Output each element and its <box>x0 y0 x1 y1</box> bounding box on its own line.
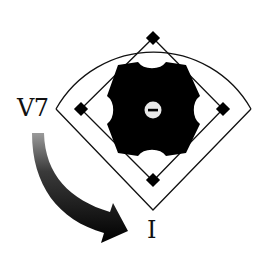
minus-icon <box>148 109 158 112</box>
field-graphic <box>0 0 266 253</box>
chord-label-v7: V7 <box>17 96 49 120</box>
resolution-arrow <box>32 133 128 243</box>
chord-label-i: I <box>147 218 156 242</box>
baseball-harmony-diagram: V7 I <box>0 0 266 253</box>
